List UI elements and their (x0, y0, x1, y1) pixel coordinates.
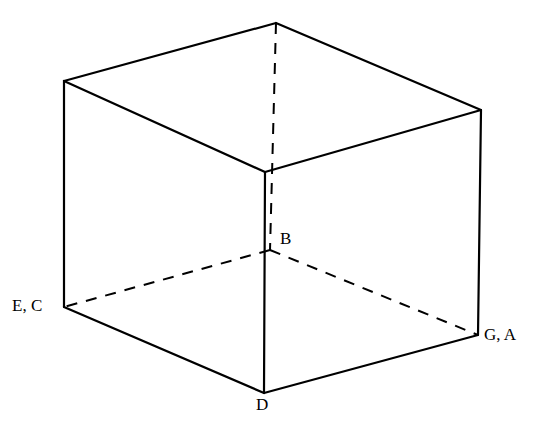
cube-wireframe-svg (0, 0, 541, 431)
cube-solid-edges (64, 23, 481, 393)
edge-front-center-to-top-right (265, 110, 481, 172)
edge-left-bottom-to-front-bottom (64, 307, 264, 393)
cube-diagram-figure: E, C G, A B D (0, 0, 541, 431)
edge-top-left-to-front-center (64, 81, 265, 172)
edge-top-left-to-apex (64, 23, 276, 81)
edge-hidden-back-left (64, 250, 270, 307)
edge-hidden-back-right (270, 250, 478, 335)
vertex-label-e-c: E, C (12, 297, 42, 314)
edge-front-vertical (264, 172, 265, 393)
edge-front-bottom-to-right-bottom (264, 335, 478, 393)
vertex-label-g-a: G, A (484, 326, 516, 343)
edge-apex-to-top-right (276, 23, 481, 110)
vertex-label-d: D (256, 396, 268, 413)
vertex-label-b: B (280, 230, 291, 247)
edge-hidden-back-vertical (270, 23, 276, 250)
edge-right-vertical (478, 110, 481, 335)
cube-hidden-edges (64, 23, 478, 335)
